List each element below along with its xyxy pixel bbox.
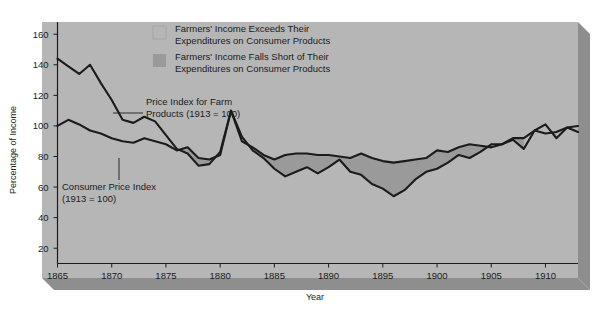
legend-label-surplus-line2: Expenditures on Consumer Products (175, 35, 330, 46)
legend-swatch-deficit (153, 54, 166, 67)
figure-container: 20406080100120140160 1865187018751880188… (0, 0, 596, 312)
x-axis-title: Year (306, 292, 324, 302)
y-tick-label: 120 (33, 90, 49, 101)
x-tick-label: 1910 (535, 270, 556, 281)
y-tick-label: 140 (33, 59, 49, 70)
cpi-callout-line2: (1913 = 100) (62, 193, 116, 204)
x-tick-label: 1880 (210, 270, 231, 281)
x-tick-label: 1905 (481, 270, 502, 281)
y-tick-label: 160 (33, 29, 49, 40)
legend-label-deficit-line1: Farmers' Income Falls Short of Their (175, 51, 329, 62)
y-tick-label: 100 (33, 120, 49, 131)
x-tick-label: 1870 (101, 270, 122, 281)
legend-label-deficit-line2: Expenditures on Consumer Products (175, 63, 330, 74)
legend-swatch-surplus (153, 26, 166, 39)
y-tick-label: 80 (38, 151, 49, 162)
x-tick-label: 1865 (47, 270, 68, 281)
panel-drop-shadow-bottom (42, 278, 590, 290)
price-index-line-chart: 20406080100120140160 1865187018751880188… (0, 0, 596, 312)
y-tick-label: 60 (38, 182, 49, 193)
x-tick-label: 1885 (264, 270, 285, 281)
x-tick-label: 1875 (155, 270, 176, 281)
legend-label-surplus-line1: Farmers' Income Exceeds Their (175, 23, 309, 34)
y-tick-label: 40 (38, 212, 49, 223)
farm-callout-line1: Price Index for Farm (146, 96, 232, 107)
panel-drop-shadow (578, 22, 590, 290)
cpi-callout-line1: Consumer Price Index (62, 181, 156, 192)
x-tick-label: 1895 (372, 270, 393, 281)
y-axis-title: Percentage of Income (8, 106, 18, 194)
x-tick-label: 1890 (318, 270, 339, 281)
farm-callout-line2: Products (1913 = 100) (146, 108, 240, 119)
x-tick-label: 1900 (426, 270, 447, 281)
y-tick-label: 20 (38, 243, 49, 254)
